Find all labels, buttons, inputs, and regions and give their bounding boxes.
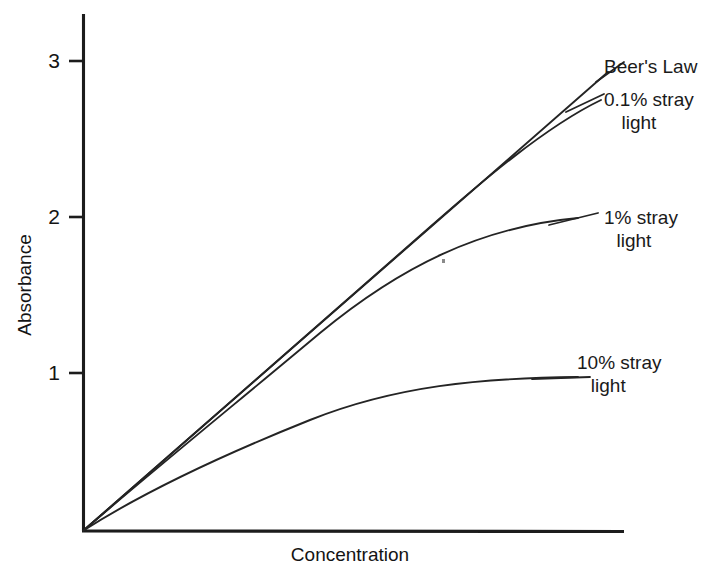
y-tick-labels: 3 2 1 [48, 49, 60, 384]
series-label-stray-0-1: 0.1% stray light [604, 88, 694, 134]
x-axis-title: Concentration [291, 544, 409, 565]
series-line-stray-10 [84, 377, 579, 531]
series-label-stray-0-1-line2: light [604, 111, 694, 134]
scan-artifact-speck [442, 259, 445, 263]
series-label-stray-1: 1% stray light [604, 206, 678, 252]
y-tick-label-2: 2 [48, 205, 60, 228]
y-tick-label-1: 1 [48, 361, 60, 384]
leader-line-stray-1 [549, 213, 598, 225]
y-tick-label-3: 3 [48, 49, 60, 72]
series-label-beers-law: Beer's Law [604, 56, 697, 78]
x-axis-line [82, 531, 624, 532]
series-line-stray-1 [84, 218, 579, 531]
y-tick-marks [69, 61, 84, 373]
y-axis-title: Absorbance [14, 234, 35, 335]
chart-canvas: 3 2 1 Absorbance Concentration [0, 0, 716, 576]
series-label-stray-10-line2: light [577, 374, 661, 397]
series-label-stray-10: 10% stray light [577, 351, 661, 397]
series-label-stray-1-line2: light [604, 229, 678, 252]
chart-figure: 3 2 1 Absorbance Concentration Beer's La… [0, 0, 716, 576]
series-label-beers-law-text: Beer's Law [604, 56, 697, 77]
series-label-stray-0-1-line1: 0.1% stray [604, 88, 694, 111]
axis-group [82, 14, 624, 532]
series-label-stray-1-line1: 1% stray [604, 206, 678, 229]
series-label-stray-10-line1: 10% stray [577, 351, 661, 374]
